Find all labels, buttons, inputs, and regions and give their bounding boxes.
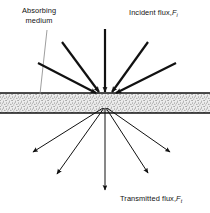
incident-flux-text: Incident flux,: [129, 8, 172, 17]
transmitted-flux-subscript: t: [181, 198, 183, 204]
transmitted-ray-group: [33, 108, 170, 190]
transmitted-ray-2: [57, 108, 104, 174]
incident-flux-label: Incident flux,Fi: [129, 8, 178, 21]
incident-ray-5: [116, 63, 176, 93]
incident-flux-subscript: i: [177, 12, 178, 18]
absorbing-medium-label: Absorbing medium: [8, 6, 70, 25]
incident-ray-group: [38, 29, 176, 93]
radiative-transfer-diagram: [0, 0, 210, 213]
transmitted-ray-4: [106, 108, 148, 173]
transmitted-flux-text: Transmitted flux,: [120, 194, 176, 203]
transmitted-ray-1: [33, 108, 103, 152]
absorbing-medium-label-line1: Absorbing: [22, 6, 56, 15]
absorbing-medium-leader-line: [40, 30, 47, 94]
absorbing-medium-label-line2: medium: [26, 16, 53, 25]
transmitted-flux-label: Transmitted flux,Ft: [120, 194, 182, 207]
incident-ray-4: [112, 42, 148, 92]
transmitted-ray-5: [107, 108, 170, 152]
